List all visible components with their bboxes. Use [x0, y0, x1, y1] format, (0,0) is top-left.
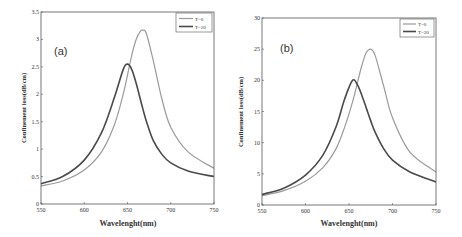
y-tick-label: 5	[257, 171, 260, 177]
y-tick-label: 3.5	[32, 9, 40, 15]
y-axis-title-b: Confinement loss(dB/cm)	[237, 77, 245, 147]
x-tick-label: 650	[345, 208, 354, 214]
panel-label-b: (b)	[280, 42, 293, 54]
y-tick-label: 1.5	[32, 119, 40, 125]
curve-t20	[262, 80, 436, 195]
chart-panel-a: 00.511.522.533.5 550600650700750 (a) Wav…	[20, 9, 219, 228]
x-tick-label: 700	[166, 207, 175, 213]
x-tick-label: 600	[80, 207, 89, 213]
legend-a: T=0 T=20	[176, 13, 212, 32]
y-tick-label: 20	[254, 77, 260, 83]
panel-label-a: (a)	[54, 45, 67, 57]
y-tick-label: 2	[36, 91, 39, 97]
y-tick-label: 30	[254, 15, 260, 21]
x-tick-label: 650	[123, 207, 132, 213]
y-tick-label: 1	[36, 146, 39, 152]
y-tick-label: 25	[254, 46, 260, 52]
curve-t20	[41, 64, 214, 184]
x-tick-label: 550	[258, 208, 267, 214]
curves-b	[262, 49, 436, 196]
legend-label-t20-b: T=20	[418, 30, 429, 35]
y-axis-title-a: Confinement loss(dB/cm)	[20, 73, 28, 143]
x-axis-title-a: Wavelenght(nm)	[100, 219, 157, 228]
x-tick-label: 600	[301, 208, 310, 214]
plot-frame-a	[41, 12, 214, 204]
y-tick-label: 15	[254, 109, 260, 115]
legend-b: T=0 T=20	[400, 19, 434, 37]
y-tick-label: 2.5	[32, 64, 40, 70]
chart-panel-b: 051015202530 550600650700750 (b) Wavelen…	[237, 15, 441, 228]
y-ticks-b: 051015202530	[254, 15, 264, 208]
x-tick-label: 750	[432, 208, 441, 214]
legend-label-t0-b: T=0	[418, 22, 427, 27]
x-axis-title-b: Wavelenght(nm)	[321, 219, 378, 228]
y-tick-label: 0.5	[32, 174, 40, 180]
x-tick-label: 700	[388, 208, 397, 214]
x-tick-label: 550	[37, 207, 46, 213]
y-tick-label: 10	[254, 140, 260, 146]
curve-t0	[262, 49, 436, 196]
y-tick-label: 3	[36, 36, 39, 42]
legend-label-t20-a: T=20	[195, 25, 206, 30]
figure: 00.511.522.533.5 550600650700750 (a) Wav…	[0, 0, 462, 237]
x-tick-label: 750	[210, 207, 219, 213]
legend-label-t0-a: T=0	[195, 17, 204, 22]
